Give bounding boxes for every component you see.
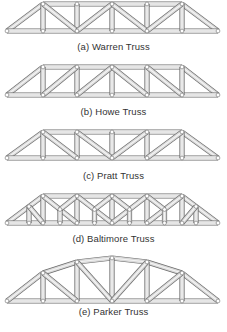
truss-member [112, 262, 147, 301]
truss-joint [41, 271, 45, 275]
truss-member [43, 273, 77, 301]
truss-joint [145, 260, 149, 264]
truss-joint [110, 256, 114, 260]
truss-member [77, 258, 112, 262]
parker-truss-caption: (e) Parker Truss [0, 306, 227, 317]
truss-member [112, 258, 147, 262]
parker-truss-diagram [0, 0, 227, 332]
truss-member [182, 273, 218, 301]
truss-joint [145, 299, 149, 303]
truss-joint [110, 299, 114, 303]
truss-joint [180, 271, 184, 275]
truss-member [147, 273, 182, 301]
truss-member [43, 262, 77, 273]
truss-joint [75, 299, 79, 303]
truss-member [7, 273, 43, 301]
truss-joint [41, 299, 45, 303]
truss-joint [75, 260, 79, 264]
truss-joint [5, 299, 9, 303]
truss-member [147, 262, 182, 273]
truss-member [77, 262, 112, 301]
truss-joint [180, 299, 184, 303]
truss-joint [216, 299, 220, 303]
